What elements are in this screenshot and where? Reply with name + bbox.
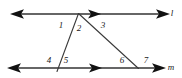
line-m-group: [7, 63, 166, 72]
angle-label-4: 4: [47, 56, 52, 65]
angle-label-3: 3: [101, 21, 106, 30]
line-label-l: l: [171, 9, 174, 18]
figure-canvas: [0, 0, 182, 78]
angle-label-6: 6: [120, 56, 125, 65]
line-l-group: [10, 9, 170, 18]
angle-label-7: 7: [144, 56, 149, 65]
transversal-right-stroke: [79, 14, 139, 69]
angle-label-1: 1: [59, 21, 64, 30]
line-label-m: m: [168, 63, 175, 72]
geometry-figure: 1 2 3 4 5 6 7 l m: [0, 0, 182, 78]
angle-label-2: 2: [77, 24, 82, 33]
angle-label-5: 5: [64, 56, 69, 65]
transversals-group: [57, 14, 139, 72]
